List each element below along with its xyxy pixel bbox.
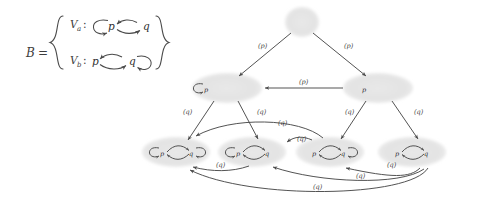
right-brace: [156, 16, 169, 69]
definition-block: B = V a : p q V b : p: [25, 16, 169, 69]
equals-sign: =: [38, 46, 48, 60]
b4-state-q: q: [424, 150, 428, 158]
node-b2-blob: [218, 137, 286, 167]
edge-label-m2-b4: (q): [414, 108, 424, 116]
node-m2-blob: [343, 73, 413, 103]
Va-state-q: q: [143, 20, 150, 32]
edge-label-m1-b2: (q): [257, 108, 267, 116]
edge-label-m2-m1: (p): [299, 78, 309, 86]
edge-labels: (p) (p) (p) (q) (q) (q) (q) (q) (q) (q) …: [183, 42, 424, 191]
Va-state-p: p: [108, 20, 115, 32]
Vb-state-q: q: [129, 55, 136, 67]
definition-row-Va: V a : p q: [70, 18, 150, 34]
edge-label-b3-b2: (q): [297, 135, 307, 143]
edge-m1-b1: [188, 101, 214, 140]
Vb-edge-q-to-p: [100, 54, 122, 59]
Va-edge-p-to-q: [117, 30, 140, 34]
Vb-colon: :: [83, 54, 87, 66]
Vb-edge-p-to-q: [100, 65, 126, 69]
edge-top-m1: [239, 33, 291, 76]
node-m1-blob: [192, 73, 262, 103]
edge-label-b3-b1: (q): [278, 119, 288, 127]
b2-state-q: q: [265, 150, 269, 158]
set-name: B: [25, 46, 35, 60]
b1-state-q: q: [189, 150, 193, 158]
node-top-blob: [285, 7, 319, 37]
edge-label-m1-b1: (q): [183, 108, 193, 116]
Vb-self-loop-q: [137, 56, 151, 69]
left-brace: [50, 16, 63, 69]
definition-row-Vb: V b : p q: [70, 54, 151, 69]
Va-subscript: a: [77, 25, 81, 33]
Va-edge-q-to-p: [117, 20, 137, 24]
Va-self-loop-p: [93, 20, 108, 34]
edge-label-b4-b1-far: (q): [313, 183, 323, 191]
lattice-diagram: (p) (p) (p) (q) (q) (q) (q) (q) (q) (q) …: [142, 7, 446, 192]
edge-m1-b2: [238, 101, 258, 139]
b3-state-q: q: [341, 150, 345, 158]
edge-label-b4-b2: (q): [356, 172, 366, 180]
edge-label-b4-b3: (q): [387, 161, 397, 169]
edge-label-b4-b1: (q): [216, 161, 226, 169]
Va-colon: :: [83, 18, 87, 30]
edge-m2-b4: [392, 101, 418, 139]
Vb-state-p: p: [92, 55, 99, 67]
edge-label-m2-b3: (q): [345, 108, 355, 116]
node-blobs: [142, 7, 446, 167]
figure-canvas: B = V a : p q V b : p: [0, 0, 477, 200]
Vb-subscript: b: [77, 61, 82, 69]
edge-m2-b3: [341, 101, 366, 139]
node-b1-blob: [142, 137, 210, 167]
edge-label-top-m2: (p): [344, 42, 354, 50]
edge-b4-b1-below-far: [190, 168, 428, 192]
edge-label-top-m1: (p): [258, 42, 268, 50]
edge-top-m2: [313, 33, 366, 76]
